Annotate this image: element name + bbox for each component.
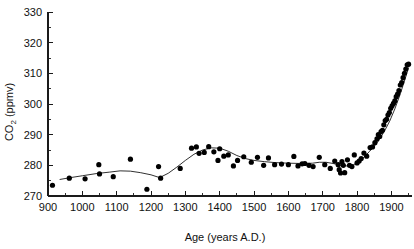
y-tick-label-group: 270280290300310320330 (24, 6, 42, 202)
data-point (255, 155, 260, 160)
x-tick-label: 1000 (70, 201, 94, 213)
data-point (215, 158, 220, 163)
x-tick-label: 1700 (310, 201, 334, 213)
data-point (396, 88, 401, 93)
data-point (206, 144, 211, 149)
data-point (96, 162, 101, 167)
data-point (144, 187, 149, 192)
y-tick-label: 300 (24, 98, 42, 110)
data-point (221, 154, 226, 159)
data-point (311, 164, 316, 169)
x-tick-label: 1200 (139, 201, 163, 213)
data-point (231, 163, 236, 168)
chart-canvas: 270280290300310320330 900100011001200130… (0, 0, 414, 249)
y-tick-label: 320 (24, 37, 42, 49)
data-point (341, 163, 346, 168)
data-point (178, 166, 183, 171)
data-point (352, 152, 357, 157)
data-point (194, 144, 199, 149)
y-axis-title-species: CO (3, 124, 15, 141)
data-point (380, 128, 385, 133)
data-point (249, 160, 254, 165)
data-point (286, 162, 291, 167)
data-point (241, 154, 246, 159)
x-tick-label: 900 (39, 201, 57, 213)
data-point (67, 176, 72, 181)
data-point (211, 149, 216, 154)
data-point (82, 176, 87, 181)
data-point (189, 146, 194, 151)
data-point (328, 166, 333, 171)
data-point (97, 171, 102, 176)
minor-tick-group (48, 27, 409, 196)
data-point (399, 80, 404, 85)
data-point (156, 164, 161, 169)
data-point (111, 174, 116, 179)
data-point (235, 158, 240, 163)
y-tick-label: 330 (24, 6, 42, 18)
data-point (359, 156, 364, 161)
data-point (317, 155, 322, 160)
y-tick-label: 280 (24, 159, 42, 171)
data-point (406, 62, 411, 67)
data-point (158, 176, 163, 181)
data-point (202, 150, 207, 155)
plot-area: 270280290300310320330 900100011001200130… (24, 6, 412, 213)
x-tick-label: 1100 (105, 201, 129, 213)
data-point (266, 155, 271, 160)
data-point (291, 154, 296, 159)
data-point (377, 134, 382, 139)
data-point (272, 162, 277, 167)
x-tick-label: 1900 (379, 201, 403, 213)
data-point (50, 183, 55, 188)
data-point (364, 154, 369, 159)
data-point (345, 157, 350, 162)
y-axis-title: CO2 (ppmv) (3, 83, 18, 141)
x-axis-title: Age (years A.D.) (185, 231, 266, 243)
y-tick-label: 310 (24, 67, 42, 79)
co2-ice-core-figure: 270280290300310320330 900100011001200130… (0, 0, 414, 249)
x-tick-label: 1600 (276, 201, 300, 213)
y-tick-label: 290 (24, 129, 42, 141)
data-point (342, 170, 347, 175)
data-point (322, 162, 327, 167)
x-tick-label: 1300 (173, 201, 197, 213)
data-point (279, 162, 284, 167)
x-tick-label: 1800 (345, 201, 369, 213)
y-axis-title-unit: (ppmv) (3, 83, 15, 120)
svg-text:CO2 (ppmv): CO2 (ppmv) (3, 83, 18, 141)
x-tick-label: 1500 (242, 201, 266, 213)
data-point (349, 164, 354, 169)
data-point (128, 157, 133, 162)
x-tick-label: 1400 (207, 201, 231, 213)
data-point (261, 163, 266, 168)
data-point (196, 151, 201, 156)
data-point (226, 152, 231, 157)
x-tick-label-group: 9001000110012001300140015001600170018001… (39, 201, 404, 213)
data-point (217, 146, 222, 151)
